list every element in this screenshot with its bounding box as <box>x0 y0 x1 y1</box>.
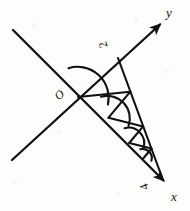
angle-arc-1 <box>69 67 109 105</box>
x-axis-line <box>13 30 164 181</box>
spiral-segment-3 <box>109 118 144 127</box>
diagram-canvas <box>0 0 190 211</box>
y-axis-label: y <box>166 6 172 19</box>
hypotenuse-line <box>118 58 163 180</box>
geometry-figure: y x O 2 4 <box>0 0 190 211</box>
spiral-segment-5 <box>129 143 151 149</box>
spiral-triangle-legs <box>78 92 152 158</box>
y-axis-line <box>12 25 160 161</box>
x-axis-label: x <box>171 190 177 203</box>
